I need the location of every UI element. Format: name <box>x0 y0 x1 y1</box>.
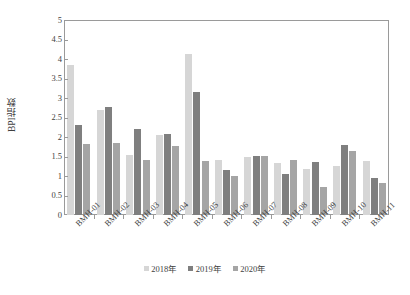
bar-group-bmh-06 <box>215 20 238 215</box>
y-tick-mark <box>64 137 68 138</box>
bar-bmh-02-2018 <box>97 110 104 215</box>
bar-bmh-03-2019 <box>134 129 141 215</box>
bar-bmh-09-2019 <box>312 162 319 215</box>
y-tick-label-2: 2 <box>28 133 62 142</box>
y-tick-mark <box>64 176 68 177</box>
x-tick-mark <box>359 215 360 219</box>
bar-group-bmh-03 <box>126 20 149 215</box>
legend-swatch-icon <box>233 266 238 271</box>
legend-swatch-icon <box>144 266 149 271</box>
y-tick-label-4: 4 <box>28 55 62 64</box>
bar-bmh-11-2019 <box>371 178 378 215</box>
y-tick-label-4-5: 4.5 <box>28 35 62 44</box>
y-tick-label-3: 3 <box>28 94 62 103</box>
y-axis-title: BPI指数 <box>4 70 20 160</box>
bar-group-bmh-09 <box>303 20 326 215</box>
bar-bmh-05-2018 <box>185 54 192 215</box>
bar-bmh-01-2018 <box>67 65 74 215</box>
bar-group-bmh-08 <box>274 20 297 215</box>
y-tick-label-1: 1 <box>28 172 62 181</box>
x-tick-mark <box>94 215 95 219</box>
bar-group-bmh-02 <box>97 20 120 215</box>
bar-bmh-08-2019 <box>282 174 289 215</box>
bar-group-bmh-10 <box>333 20 356 215</box>
x-tick-mark <box>212 215 213 219</box>
y-tick-label-5: 5 <box>28 16 62 25</box>
bar-group-bmh-01 <box>67 20 90 215</box>
y-tick-label-0: 0 <box>28 211 62 220</box>
bar-bmh-02-2019 <box>105 107 112 215</box>
legend-item-2018[interactable]: 2018年 <box>144 262 178 274</box>
y-tick-label-1-5: 1.5 <box>28 152 62 161</box>
x-tick-mark <box>330 215 331 219</box>
y-tick-mark <box>64 196 68 197</box>
x-tick-mark <box>153 215 154 219</box>
y-tick-label-0-5: 0.5 <box>28 191 62 200</box>
bar-group-bmh-05 <box>185 20 208 215</box>
legend-item-2019[interactable]: 2019年 <box>188 262 222 274</box>
bpi-index-bar-chart: BPI指数 00.511.522.533.544.55 BMH-01BMH-02… <box>0 0 410 295</box>
y-tick-mark <box>64 118 68 119</box>
bar-group-bmh-11 <box>363 20 386 215</box>
y-tick-label-3-5: 3.5 <box>28 74 62 83</box>
bars-layer <box>64 20 389 215</box>
y-tick-mark <box>64 59 68 60</box>
x-axis-tick-labels: BMH-01BMH-02BMH-03BMH-04BMH-05BMH-06BMH-… <box>0 219 410 265</box>
legend-swatch-icon <box>188 266 193 271</box>
x-tick-mark <box>182 215 183 219</box>
y-tick-label-2-5: 2.5 <box>28 113 62 122</box>
bar-bmh-06-2019 <box>223 170 230 215</box>
y-tick-mark <box>64 79 68 80</box>
x-tick-mark <box>300 215 301 219</box>
legend-item-2020[interactable]: 2020年 <box>233 262 267 274</box>
bar-bmh-04-2019 <box>164 134 171 215</box>
bar-bmh-10-2019 <box>341 145 348 215</box>
chart-legend: 2018年2019年2020年 <box>0 262 410 274</box>
y-tick-mark <box>64 40 68 41</box>
legend-label: 2020年 <box>240 262 266 274</box>
legend-label: 2019年 <box>196 262 222 274</box>
y-tick-mark <box>64 98 68 99</box>
bar-bmh-01-2019 <box>75 125 82 215</box>
x-tick-mark <box>241 215 242 219</box>
x-tick-mark <box>123 215 124 219</box>
bar-bmh-07-2019 <box>253 156 260 215</box>
bar-group-bmh-07 <box>244 20 267 215</box>
bar-group-bmh-04 <box>156 20 179 215</box>
x-tick-mark <box>271 215 272 219</box>
legend-label: 2018年 <box>151 262 177 274</box>
bar-bmh-05-2019 <box>193 92 200 215</box>
y-tick-mark <box>64 157 68 158</box>
